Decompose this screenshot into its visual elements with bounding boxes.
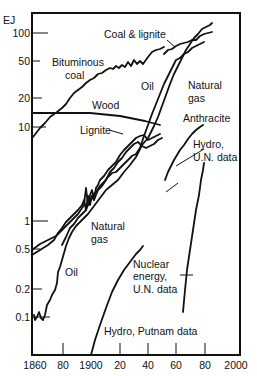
- label-nuclear-3: U.N. data: [133, 283, 178, 295]
- x-tick-label: 1900: [79, 359, 103, 371]
- x-tick-label: 80: [199, 359, 211, 371]
- y-axis-unit: EJ: [3, 14, 15, 26]
- label-hydro-un-1: Hydro,: [193, 138, 224, 150]
- x-tick-label: 1860: [23, 359, 47, 371]
- y-tick-label: 0.1: [15, 311, 30, 323]
- y-tick-label: 20: [18, 92, 30, 104]
- x-tick-label: 40: [142, 359, 154, 371]
- label-hydro-un-2: U.N. data: [193, 151, 238, 163]
- label-nuclear-1: Nuclear: [133, 258, 170, 270]
- label-lignite: Lignite: [80, 124, 111, 136]
- label-natural-gas-upper-2: gas: [188, 92, 205, 104]
- series-coal-lignite: [164, 32, 212, 54]
- y-tick-label: 0.5: [15, 243, 30, 255]
- label-anthracite: Anthracite: [183, 112, 230, 124]
- label-hydro-putnam: Hydro, Putnam data: [104, 325, 198, 337]
- series-nuclear: [183, 163, 204, 312]
- series-lines: [32, 23, 212, 355]
- label-nuclear-2: energy,: [133, 270, 167, 282]
- energy-consumption-chart: EJ 100 50 20 10 1 0.5 0.2 0.1 1860 80 19…: [0, 0, 257, 376]
- y-tick-label: 100: [12, 27, 30, 39]
- label-wood: Wood: [92, 99, 119, 111]
- series-labels: Coal & lignite Bituminous coal Oil Natur…: [52, 28, 238, 337]
- label-oil-lower: Oil: [65, 266, 78, 278]
- x-tick-label: 60: [170, 359, 182, 371]
- x-tick-label: 2000: [224, 359, 248, 371]
- y-tick-label: 1: [24, 215, 30, 227]
- label-natural-gas-lower-1: Natural: [91, 220, 125, 232]
- label-natural-gas-lower-2: gas: [91, 233, 108, 245]
- y-tick-label: 0.2: [15, 283, 30, 295]
- y-tick-label: 10: [18, 121, 30, 133]
- label-bituminous-coal-2: coal: [65, 69, 84, 81]
- x-tick-label: 20: [114, 359, 126, 371]
- label-oil-upper: Oil: [141, 80, 154, 92]
- label-natural-gas-upper-1: Natural: [188, 79, 222, 91]
- x-axis-ticks: 1860 80 1900 20 40 60 80 2000: [23, 343, 248, 371]
- y-tick-label: 50: [18, 55, 30, 67]
- label-bituminous-coal-1: Bituminous: [52, 56, 104, 68]
- label-coal-lignite: Coal & lignite: [104, 28, 166, 40]
- x-tick-label: 80: [57, 359, 69, 371]
